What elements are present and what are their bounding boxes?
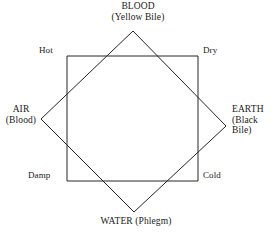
element-label-blood: BLOOD (Yellow Bile) [112,1,165,22]
humor-name-yellow-bile: (Yellow Bile) [112,12,165,23]
quality-label-dry: Dry [203,45,217,55]
element-name-air: AIR [4,104,38,115]
diagram-canvas: BLOOD (Yellow Bile) EARTH (Black Bile) W… [0,0,276,238]
element-label-earth: EARTH (Black Bile) [232,104,264,136]
quality-label-hot: Hot [39,45,53,55]
quality-label-damp: Damp [28,170,50,180]
element-name-earth: EARTH [232,104,264,115]
humor-name-black-bile-line2: Bile) [232,125,264,136]
humor-name-blood: (Blood) [4,115,38,126]
humor-name-black-bile-line1: (Black [232,115,264,126]
element-name-water-phlegm: WATER (Phlegm) [101,216,172,227]
quality-label-cold: Cold [203,170,221,180]
element-label-water: WATER (Phlegm) [101,216,172,227]
element-label-air: AIR (Blood) [4,104,38,125]
element-name-blood: BLOOD [112,1,165,12]
